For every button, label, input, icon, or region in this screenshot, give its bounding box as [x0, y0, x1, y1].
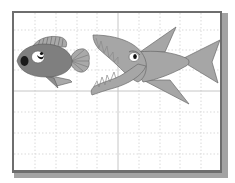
small-fish-mouth	[21, 56, 29, 66]
shark-pupil	[133, 54, 137, 59]
illustration-canvas	[0, 0, 235, 183]
